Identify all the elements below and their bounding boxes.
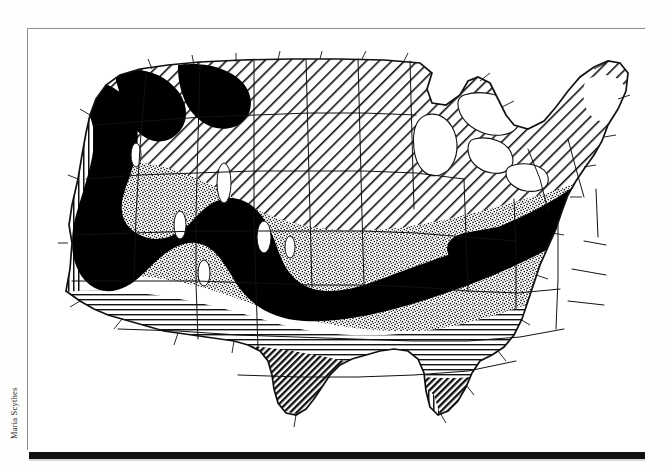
white-enclave-great-basin-a	[217, 163, 231, 203]
figure-frame	[27, 28, 645, 450]
document-page: Maria Scythes	[0, 0, 671, 471]
white-enclave-rockies-b	[285, 236, 295, 258]
us-thematic-map	[28, 29, 646, 451]
bottom-rule	[29, 452, 645, 459]
bottom-rule-shadow	[29, 459, 645, 461]
credit-line: Maria Scythes	[9, 369, 19, 439]
white-enclave-colorado-plateau	[198, 260, 210, 286]
white-enclave-great-basin-b	[174, 211, 186, 239]
white-enclave-rockies-a	[257, 221, 271, 253]
